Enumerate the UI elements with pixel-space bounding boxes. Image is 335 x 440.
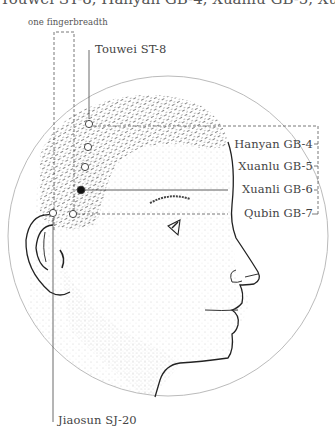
point-xuanli xyxy=(77,186,85,194)
point-jiaosun xyxy=(49,209,56,216)
label-hanyan: Hanyan GB-4 xyxy=(234,137,313,151)
one-fingerbreadth-label: one fingerbreadth xyxy=(28,17,108,27)
label-qubin: Qubin GB-7 xyxy=(244,206,313,220)
acupuncture-diagram: Touwei ST-8, Hanyan GB-4, Xuanlu GB-5, X… xyxy=(0,0,335,440)
label-xuanli: Xuanli GB-6 xyxy=(242,182,313,196)
label-touwei: Touwei ST-8 xyxy=(95,42,166,56)
point-xuanlu xyxy=(81,163,88,170)
point-hanyan xyxy=(84,143,91,150)
label-xuanlu: Xuanlu GB-5 xyxy=(238,159,313,173)
label-jiaosun: Jiaosun SJ-20 xyxy=(58,413,137,427)
point-touwei xyxy=(85,120,92,127)
point-qubin xyxy=(69,210,76,217)
head-illustration xyxy=(0,0,335,440)
